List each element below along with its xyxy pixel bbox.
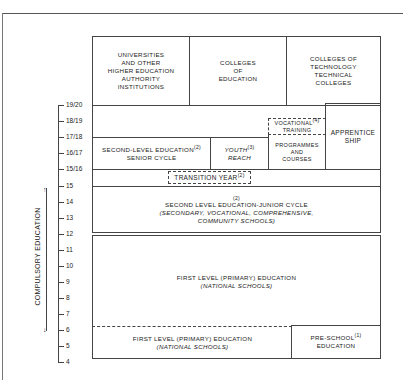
frame-left-border <box>2 13 3 380</box>
colleges-technology-line: TECHNOLOGY <box>310 63 356 71</box>
colleges-technology-line: COLLEGES <box>316 79 352 87</box>
tick-label: 17/18 <box>66 133 82 141</box>
tick <box>58 362 64 363</box>
footnote-marker: (3) <box>248 143 255 149</box>
pre-school-line: PRE-SCHOOL(1) <box>311 334 362 342</box>
tick-label: 16/17 <box>66 149 82 157</box>
universities-line: INSTITUTIONS <box>118 83 165 91</box>
tick-label: 8 <box>66 294 70 302</box>
programmes-courses-box: PROGRAMMES AND COURSES <box>268 134 326 170</box>
tick <box>58 153 64 154</box>
colleges-education-line: OF <box>233 67 242 75</box>
compulsory-arrow <box>46 188 47 331</box>
senior-cycle-subtitle: SENIOR CYCLE <box>127 154 177 162</box>
first-level-subtitle: (NATIONAL SCHOOLS) <box>201 282 273 290</box>
footnote-marker: (4) <box>313 117 320 123</box>
tick-label: 15 <box>66 182 73 190</box>
tick <box>58 202 64 203</box>
tick-label: 9 <box>66 278 70 286</box>
tick <box>58 314 64 315</box>
footnote-marker: (2) <box>238 171 245 177</box>
arrow-up-icon: ↑ <box>43 186 47 193</box>
tick-label: 14 <box>66 198 73 206</box>
tick <box>58 105 64 106</box>
junior-cycle-title: SECOND LEVEL EDUCATION-JUNIOR CYCLE <box>165 201 308 209</box>
colleges-technology-line: TECHNICAL <box>315 71 353 79</box>
tick-label: 18/19 <box>66 117 82 125</box>
first-level-lower-box: FIRST LEVEL (PRIMARY) EDUCATION (NATIONA… <box>92 326 292 359</box>
youth-reach-line: REACH <box>228 154 251 162</box>
tick-label: 6 <box>66 326 70 334</box>
tick <box>58 298 64 299</box>
programmes-line: AND <box>291 149 304 156</box>
tick-label: 12 <box>66 230 73 238</box>
senior-cycle-title: SECOND-LEVEL EDUCATION(2) <box>102 146 201 154</box>
colleges-education-line: COLLEGES <box>220 59 256 67</box>
tick <box>58 266 64 267</box>
programmes-line: PROGRAMMES <box>275 142 318 149</box>
tick <box>58 346 64 347</box>
footnote-marker: (2) <box>194 143 201 149</box>
tick-label: 4 <box>66 358 70 366</box>
tick <box>58 234 64 235</box>
tick-label: 7 <box>66 310 70 318</box>
universities-line: AUTHORITY <box>122 75 160 83</box>
universities-box: UNIVERSITIES AND OTHER HIGHER EDUCATION … <box>92 36 190 106</box>
senior-cycle-box: SECOND-LEVEL EDUCATION(2) SENIOR CYCLE <box>92 137 211 170</box>
transition-year-label: TRANSITION YEAR(2) <box>174 174 244 182</box>
youth-reach-line: YOUTH(3) <box>224 146 254 154</box>
tick <box>58 330 64 331</box>
colleges-technology-line: COLLEGES OF <box>310 55 357 63</box>
junior-cycle-subtitle: COMMUNITY SCHOOLS) <box>198 217 275 225</box>
programmes-line: COURSES <box>282 156 311 163</box>
first-level-subtitle: (NATIONAL SCHOOLS) <box>157 343 229 351</box>
footnote-marker: (1) <box>354 332 361 338</box>
transition-year-box: TRANSITION YEAR(2) <box>168 171 251 184</box>
tick-label: 5 <box>66 342 70 350</box>
tick <box>58 186 64 187</box>
apprentice-line: APPRENTICE <box>331 129 376 137</box>
tick-label: 15/16 <box>66 165 82 173</box>
arrow-down-icon: ↓ <box>43 326 47 333</box>
colleges-education-line: EDUCATION <box>219 75 258 83</box>
vocational-training-box: VOCATIONAL(4) TRAINING <box>268 118 326 135</box>
tick <box>58 282 64 283</box>
compulsory-education-label: COMPULSORY EDUCATION <box>34 187 41 327</box>
apprentice-line: SHIP <box>345 137 361 145</box>
apprenticeship-box: APPRENTICE SHIP <box>325 103 381 170</box>
first-level-title: FIRST LEVEL (PRIMARY) EDUCATION <box>177 274 296 282</box>
vocational-line: VOCATIONAL(4) <box>274 120 319 127</box>
universities-line: AND OTHER <box>121 59 160 67</box>
tick <box>58 218 64 219</box>
tick-label: 13 <box>66 214 73 222</box>
tick-label: 19/20 <box>66 101 82 109</box>
junior-cycle-box: (2) SECOND LEVEL EDUCATION-JUNIOR CYCLE … <box>92 186 381 233</box>
colleges-of-education-box: COLLEGES OF EDUCATION <box>189 36 287 106</box>
colleges-of-technology-box: COLLEGES OF TECHNOLOGY TECHNICAL COLLEGE… <box>286 36 381 106</box>
vocational-line: TRAINING <box>283 127 312 134</box>
tick-label: 10 <box>66 262 73 270</box>
first-level-title: FIRST LEVEL (PRIMARY) EDUCATION <box>133 335 252 343</box>
tick-label: 11 <box>66 246 73 254</box>
pre-school-line: EDUCATION <box>317 342 356 350</box>
universities-line: HIGHER EDUCATION <box>108 67 175 75</box>
tick <box>58 137 64 138</box>
tick <box>58 250 64 251</box>
frame-top-border <box>2 13 403 14</box>
first-level-upper-box: FIRST LEVEL (PRIMARY) EDUCATION (NATIONA… <box>92 235 381 327</box>
youth-reach-box: YOUTH(3) REACH <box>210 137 269 170</box>
junior-cycle-subtitle: (SECONDARY, VOCATIONAL, COMPREHENSIVE, <box>159 209 313 217</box>
universities-line: UNIVERSITIES <box>118 51 165 59</box>
tick <box>58 121 64 122</box>
pre-school-box: PRE-SCHOOL(1) EDUCATION <box>291 325 381 359</box>
tick <box>58 169 64 170</box>
